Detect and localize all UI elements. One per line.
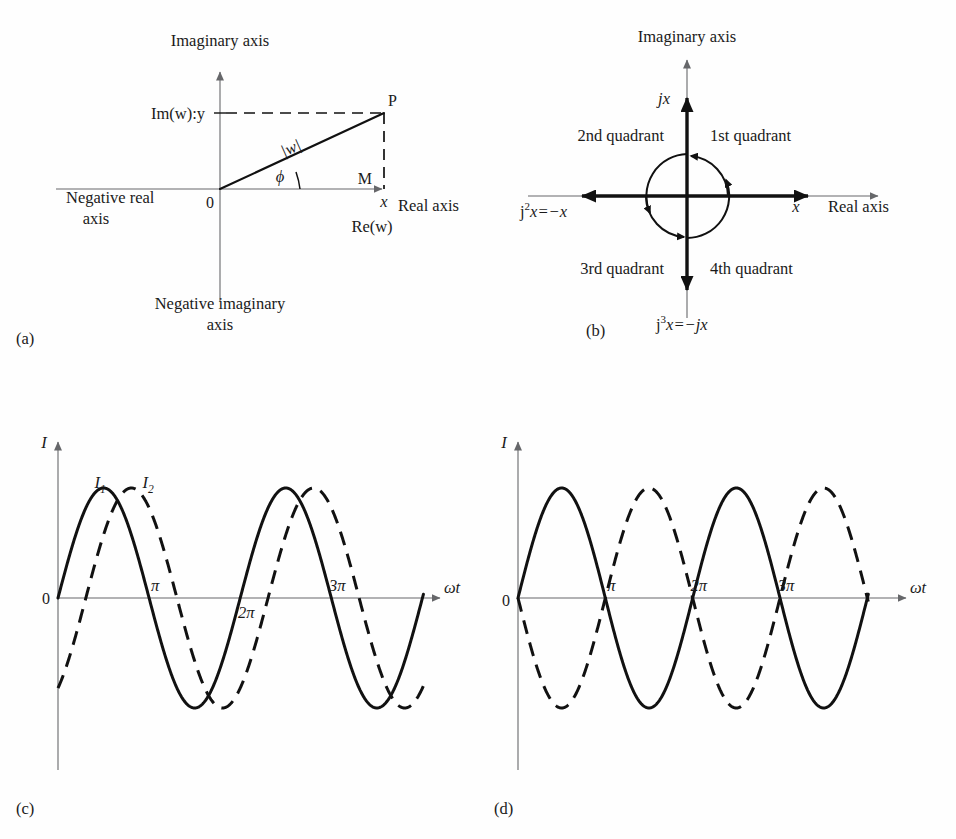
real-part-label: Re(w): [351, 217, 392, 236]
panel-a-tag: (a): [16, 329, 34, 348]
rotation-arc-quadrant-4: [687, 180, 729, 238]
origin-label: 0: [206, 194, 214, 211]
real-axis-label: Real axis: [828, 197, 889, 216]
j-cubed-remainder: x=−jx: [665, 315, 708, 334]
figure-sheet: Imaginary axis Real axis Negative real a…: [0, 0, 956, 839]
real-axis-label: Real axis: [398, 196, 459, 215]
panel-a-argand-diagram: Imaginary axis Real axis Negative real a…: [0, 0, 478, 370]
rotation-arc-quadrant-3: [646, 196, 684, 237]
tick-label-pi: π: [151, 576, 160, 595]
panel-b-j-operator-diagram: Imaginary axis Real axis jx x j2x=−x j3x…: [478, 0, 956, 370]
panel-d-antiphase-waveforms: I ωt 0 π 2π 3π (d): [478, 400, 956, 839]
panel-c-out-of-phase-waveforms: I ωt 0 I1 I2 π 2π 3π (c): [0, 400, 478, 839]
quadrant-1-label: 1st quadrant: [710, 126, 792, 145]
angle-arc: [296, 172, 300, 189]
omega-t-axis-label: ωt: [910, 578, 927, 597]
tick-label-2pi: 2π: [690, 576, 707, 595]
tick-label-2pi: 2π: [238, 603, 255, 622]
x-value-label: x: [791, 197, 800, 216]
panel-c-tag: (c): [16, 799, 34, 818]
tick-label-pi: π: [607, 576, 616, 595]
tick-label-3pi: 3π: [777, 576, 795, 595]
j-squared-remainder: x=−x: [529, 202, 568, 221]
tick-label-3pi: 3π: [328, 576, 346, 595]
negative-imaginary-axis-label-line1: Negative imaginary: [155, 294, 286, 313]
quadrant-3-label: 3rd quadrant: [580, 259, 664, 278]
rotation-arc-quadrant-2: [646, 154, 687, 213]
jx-label: jx: [656, 89, 671, 108]
negative-real-axis-label-line2: axis: [83, 209, 110, 228]
angle-phi-label: ϕ: [276, 167, 285, 186]
origin-label: 0: [42, 590, 50, 607]
current-axis-label: I: [40, 433, 48, 452]
imaginary-axis-label: Imaginary axis: [638, 27, 737, 46]
negative-real-axis-label-line1: Negative real: [66, 188, 155, 207]
imaginary-part-label: Im(w):y: [151, 104, 206, 123]
rotation-arc-quadrant-1: [691, 156, 728, 196]
j-cubed-expression: j3x=−jx: [655, 313, 708, 334]
quadrant-4-label: 4th quadrant: [710, 259, 793, 278]
quadrant-2-label: 2nd quadrant: [577, 126, 664, 145]
origin-label: 0: [502, 592, 510, 609]
series-1-label: I1: [93, 473, 105, 495]
modulus-label: |w|: [278, 135, 304, 161]
panel-b-tag: (b): [586, 321, 605, 340]
imaginary-axis-label: Imaginary axis: [171, 31, 270, 50]
omega-t-axis-label: ωt: [444, 578, 461, 597]
point-p-label: P: [388, 92, 397, 109]
x-value-label: x: [379, 192, 388, 211]
series-2-label: I2: [141, 473, 154, 495]
current-axis-label: I: [500, 433, 508, 452]
point-m-label: M: [358, 170, 372, 187]
negative-imaginary-axis-label-line2: axis: [207, 315, 234, 334]
j-squared-expression: j2x=−x: [519, 200, 568, 221]
panel-d-tag: (d): [494, 799, 513, 818]
